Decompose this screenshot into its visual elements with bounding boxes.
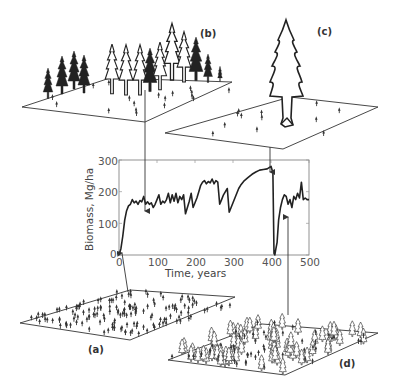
panel-label-a: (a) <box>88 344 104 355</box>
x-tick-0: 0 <box>116 256 123 268</box>
figure-canvas <box>0 0 393 379</box>
x-axis-title: Time, years <box>165 267 226 279</box>
x-tick-500: 500 <box>300 256 320 268</box>
succession-figure: (b) (c) (a) (d) 300 200 100 0 0 100 200 … <box>0 0 393 379</box>
scattered-seedlings <box>212 100 341 136</box>
biomass-chart <box>119 160 309 255</box>
plot-plane-c <box>165 97 378 149</box>
arrow-a <box>122 253 128 292</box>
y-tick-300: 300 <box>98 155 118 167</box>
y-tick-100: 100 <box>98 218 118 230</box>
x-tick-400: 400 <box>262 256 282 268</box>
large-conifer-icon <box>270 20 303 127</box>
y-axis-title: Biomass, Mg/ha <box>83 168 95 251</box>
panel-a-seedlings <box>20 288 235 340</box>
panel-label-c: (c) <box>317 26 332 37</box>
panel-label-b: (b) <box>200 28 216 39</box>
young-trees <box>171 313 367 374</box>
x-tick-300: 300 <box>224 256 244 268</box>
y-tick-200: 200 <box>98 186 118 198</box>
panel-label-d: (d) <box>339 358 355 369</box>
